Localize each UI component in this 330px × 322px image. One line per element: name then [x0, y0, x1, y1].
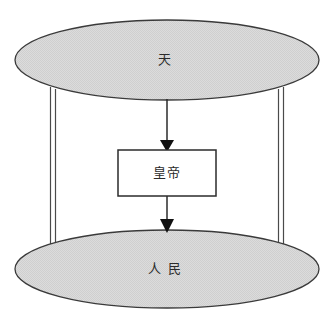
arrow-heaven-to-emperor [160, 99, 174, 152]
arrow-emperor-to-people [160, 196, 174, 233]
node-people-ellipse [15, 230, 319, 308]
node-emperor-box [118, 150, 216, 196]
diagram-canvas: 天 皇帝 人 民 [0, 0, 330, 322]
connector-right-double-line [279, 87, 284, 246]
diagram-graphics [0, 0, 330, 322]
node-heaven-ellipse [15, 20, 319, 100]
connector-left-double-line [51, 87, 56, 246]
